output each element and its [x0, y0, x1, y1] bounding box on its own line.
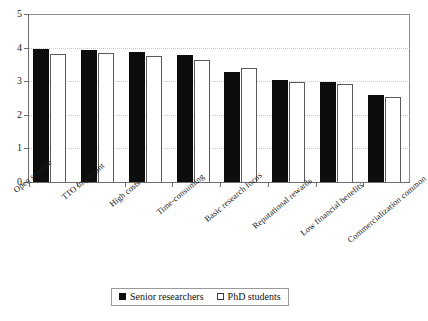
- bar-senior-researchers-0: [33, 49, 49, 182]
- bar-senior-researchers-4: [224, 72, 240, 182]
- bar-senior-researchers-1: [81, 50, 97, 182]
- y-tick-label-1: 1: [6, 143, 22, 153]
- bar-phd-students-0: [50, 54, 66, 182]
- x-tick-mark-2: [125, 183, 126, 187]
- bar-phd-students-6: [337, 84, 353, 182]
- bar-phd-students-2: [146, 56, 162, 182]
- bar-senior-researchers-2: [129, 52, 145, 182]
- x-axis-line: [28, 182, 410, 183]
- bar-phd-students-7: [385, 97, 401, 182]
- bar-senior-researchers-5: [272, 80, 288, 182]
- filled-square-icon: [119, 293, 126, 300]
- bar-senior-researchers-7: [368, 95, 384, 182]
- x-axis-label-7: Commercialization common: [346, 174, 428, 245]
- y-tick-label-5: 5: [6, 9, 22, 19]
- bar-phd-students-1: [98, 53, 114, 182]
- y-tick-label-2: 2: [6, 110, 22, 120]
- legend-label-phd-students: PhD students: [228, 291, 281, 302]
- y-tick-label-4: 4: [6, 43, 22, 53]
- legend-label-senior-researchers: Senior researchers: [130, 291, 204, 302]
- x-tick-mark-3: [172, 183, 173, 187]
- bar-senior-researchers-3: [177, 55, 193, 182]
- y-tick-label-3: 3: [6, 76, 22, 86]
- bar-phd-students-3: [194, 60, 210, 182]
- bars-layer: [28, 14, 410, 182]
- bar-senior-researchers-6: [320, 82, 336, 182]
- x-axis-label-6: Low financial benefits: [299, 181, 365, 238]
- y-tick-label-0: 0: [6, 177, 22, 187]
- x-tick-mark-6: [316, 183, 317, 187]
- hollow-square-icon: [217, 293, 224, 300]
- x-tick-mark-4: [220, 183, 221, 187]
- chart-legend: Senior researchers PhD students: [111, 288, 289, 306]
- x-axis-label-5: Reputational rewards: [251, 176, 314, 231]
- x-tick-mark-5: [268, 183, 269, 187]
- x-tick-mark-7: [363, 183, 364, 187]
- x-tick-mark-1: [77, 183, 78, 187]
- legend-entry-phd-students: PhD students: [217, 291, 281, 302]
- x-tick-mark-0: [29, 183, 30, 187]
- legend-entry-senior-researchers: Senior researchers: [119, 291, 204, 302]
- bar-phd-students-4: [241, 68, 257, 182]
- bar-phd-students-5: [289, 82, 305, 182]
